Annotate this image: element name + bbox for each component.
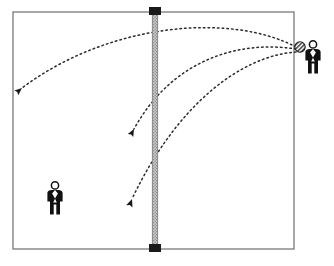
ball [295, 42, 305, 52]
diagram-canvas [0, 0, 334, 266]
court-diagram-svg [0, 0, 334, 266]
net-post-cap-top [149, 7, 161, 15]
ball-icon [295, 42, 305, 52]
net-post-cap-bottom [149, 244, 161, 252]
player-right-server [305, 41, 320, 74]
player-figure-icon [305, 41, 320, 74]
